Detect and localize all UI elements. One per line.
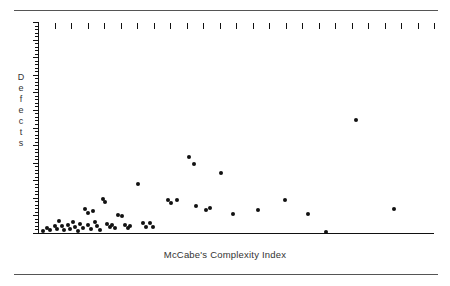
x-tick xyxy=(55,23,56,29)
y-tick xyxy=(35,229,39,230)
y-tick xyxy=(35,43,39,44)
x-tick xyxy=(88,23,89,29)
y-tick xyxy=(35,71,39,72)
y-tick xyxy=(35,29,39,30)
scatter-point xyxy=(169,201,173,205)
y-tick xyxy=(35,208,39,209)
scatter-point xyxy=(71,220,75,224)
x-tick xyxy=(71,23,72,29)
x-tick xyxy=(302,23,303,29)
y-axis-label-letter: e xyxy=(14,105,28,116)
scatter-point xyxy=(48,228,52,232)
y-tick xyxy=(35,177,39,178)
y-axis-label-letter: t xyxy=(14,127,28,138)
y-tick xyxy=(35,135,39,136)
y-axis-label-letter: D xyxy=(14,72,28,83)
y-tick xyxy=(35,120,39,121)
y-tick xyxy=(35,96,39,97)
y-axis-label-letter: f xyxy=(14,94,28,105)
scatter-point xyxy=(392,207,396,211)
y-tick xyxy=(35,131,39,132)
x-tick xyxy=(319,23,320,29)
y-tick xyxy=(35,191,39,192)
scatter-point xyxy=(283,198,287,202)
scatter-point xyxy=(144,225,148,229)
scatter-point xyxy=(128,224,132,228)
x-axis-label: McCabe's Complexity Index xyxy=(0,249,450,260)
scatter-point xyxy=(120,214,124,218)
y-tick xyxy=(35,64,39,65)
y-tick xyxy=(35,184,39,185)
y-tick xyxy=(35,201,39,202)
x-tick xyxy=(385,23,386,29)
scatter-point xyxy=(354,118,358,122)
scatter-point xyxy=(91,209,95,213)
y-tick xyxy=(35,36,39,37)
y-tick xyxy=(33,57,39,58)
bottom-rule xyxy=(14,274,438,275)
scatter-point xyxy=(175,198,179,202)
scatter-point xyxy=(103,200,107,204)
y-tick xyxy=(35,103,39,104)
scatter-point xyxy=(57,219,61,223)
x-tick xyxy=(418,23,419,29)
x-tick xyxy=(187,23,188,29)
scatter-point xyxy=(86,211,90,215)
scatter-point xyxy=(256,208,260,212)
scatter-point xyxy=(76,229,80,233)
y-tick xyxy=(35,124,39,125)
x-tick xyxy=(269,23,270,29)
scatter-point xyxy=(194,204,198,208)
x-tick xyxy=(401,23,402,29)
y-tick xyxy=(35,99,39,100)
x-tick xyxy=(368,23,369,29)
x-tick xyxy=(286,23,287,29)
y-tick xyxy=(35,159,39,160)
x-tick xyxy=(236,23,237,29)
x-tick xyxy=(154,23,155,29)
y-tick xyxy=(35,78,39,79)
y-tick xyxy=(35,187,39,188)
scatter-point xyxy=(62,228,66,232)
y-tick xyxy=(35,194,39,195)
x-tick xyxy=(121,23,122,29)
x-tick xyxy=(434,23,435,29)
y-tick xyxy=(35,212,39,213)
y-tick xyxy=(35,50,39,51)
scatter-point xyxy=(81,226,85,230)
y-tick xyxy=(33,145,39,146)
scatter-point xyxy=(141,221,145,225)
y-tick xyxy=(35,173,39,174)
figure: Defects McCabe's Complexity Index xyxy=(0,0,450,286)
y-axis-label-letter: s xyxy=(14,138,28,149)
scatter-point xyxy=(113,226,117,230)
y-tick xyxy=(33,180,39,181)
y-axis-label: Defects xyxy=(14,72,28,149)
scatter-point xyxy=(151,225,155,229)
y-tick xyxy=(35,82,39,83)
scatter-point xyxy=(187,155,191,159)
x-tick xyxy=(38,23,39,29)
y-tick xyxy=(35,85,39,86)
x-tick xyxy=(170,23,171,29)
y-tick xyxy=(35,89,39,90)
y-tick xyxy=(35,149,39,150)
y-tick xyxy=(33,75,39,76)
y-tick xyxy=(33,215,39,216)
scatter-point xyxy=(324,230,328,234)
x-tick xyxy=(253,23,254,29)
scatter-point xyxy=(192,162,196,166)
y-tick xyxy=(35,106,39,107)
y-tick xyxy=(35,226,39,227)
y-tick xyxy=(35,142,39,143)
scatter-point xyxy=(98,228,102,232)
x-tick xyxy=(203,23,204,29)
plot-area xyxy=(38,22,434,233)
y-tick xyxy=(33,128,39,129)
x-tick xyxy=(104,23,105,29)
y-tick xyxy=(35,219,39,220)
y-tick xyxy=(35,33,39,34)
scatter-point xyxy=(68,227,72,231)
y-tick xyxy=(35,138,39,139)
y-tick xyxy=(35,205,39,206)
